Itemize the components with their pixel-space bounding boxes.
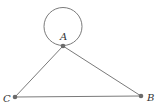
edge-c-b [15,96,141,97]
node-a [61,44,66,49]
node-c [13,95,18,100]
node-c-label: C [3,93,11,104]
edge-a-b [63,46,141,96]
node-b-label: B [146,92,154,103]
node-a-label: A [59,31,67,42]
edge-a-c [15,46,63,97]
graph-diagram: A B C [0,0,158,112]
node-b [139,94,144,99]
